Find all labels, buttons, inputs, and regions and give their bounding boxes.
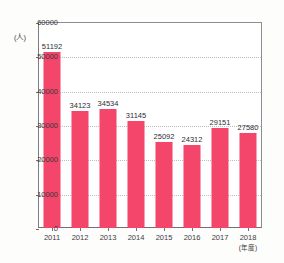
x-axis-tick-mark bbox=[220, 228, 221, 231]
bar-value-label: 27580 bbox=[238, 123, 259, 132]
bar-series: 5119234123345343114525092243122915127580 bbox=[38, 22, 262, 228]
x-axis: 20112012201320142015201620172018(年度) bbox=[38, 229, 262, 259]
y-axis-tick-label: 50000 bbox=[18, 52, 58, 61]
figure-title-cropped bbox=[22, 0, 202, 6]
bar-group: 34534 bbox=[94, 22, 122, 228]
y-axis-unit-label: (人) bbox=[14, 31, 26, 42]
x-axis-tick-mark bbox=[192, 228, 193, 231]
x-axis-tick-mark bbox=[248, 228, 249, 231]
bar-group: 31145 bbox=[122, 22, 150, 228]
x-axis-tick-mark bbox=[136, 228, 137, 231]
bar bbox=[240, 133, 257, 228]
x-axis-tick-label: 2012 bbox=[72, 233, 89, 242]
bar-value-label: 34534 bbox=[98, 99, 119, 108]
bar-value-label: 25092 bbox=[154, 132, 175, 141]
y-axis-tick-label: 30000 bbox=[18, 121, 58, 130]
bar bbox=[72, 111, 89, 228]
bar-group: 27580 bbox=[234, 22, 262, 228]
x-axis-tick-mark bbox=[164, 228, 165, 231]
bar-value-label: 51192 bbox=[42, 42, 62, 51]
bar bbox=[156, 142, 173, 228]
bar bbox=[44, 52, 61, 228]
x-axis-tick-label: 2015 bbox=[156, 233, 173, 242]
y-axis-tick-label: 60000 bbox=[18, 18, 58, 27]
x-axis-tick-label: 2017 bbox=[212, 233, 229, 242]
x-axis-tick-mark bbox=[80, 228, 81, 231]
x-axis-tick-label: 2016 bbox=[184, 233, 201, 242]
bar-group: 34123 bbox=[66, 22, 94, 228]
bar-group: 25092 bbox=[150, 22, 178, 228]
y-axis-tick-label: 0 bbox=[18, 224, 58, 233]
bar-value-label: 31145 bbox=[126, 111, 146, 120]
bar-value-label: 24312 bbox=[182, 135, 203, 144]
bar-value-label: 29151 bbox=[210, 118, 231, 127]
y-axis-tick-label: 10000 bbox=[18, 189, 58, 198]
bar bbox=[184, 145, 201, 228]
x-axis-tick-mark bbox=[108, 228, 109, 231]
x-axis-tick-label: 2014 bbox=[128, 233, 145, 242]
bar bbox=[100, 109, 117, 228]
y-axis-tick-label: 20000 bbox=[18, 155, 58, 164]
x-axis-unit-label: (年度) bbox=[239, 242, 257, 252]
bar-group: 29151 bbox=[206, 22, 234, 228]
x-axis-tick-label: 2013 bbox=[100, 233, 117, 242]
bar bbox=[212, 128, 229, 228]
x-axis-tick-label: 2011 bbox=[44, 233, 60, 242]
y-axis-tick-label: 40000 bbox=[18, 86, 58, 95]
bar-value-label: 34123 bbox=[70, 101, 91, 110]
bar-group: 24312 bbox=[178, 22, 206, 228]
bar bbox=[128, 121, 145, 228]
x-axis-tick-label: 2018 bbox=[240, 233, 257, 242]
chart-figure: (人) 511923412334534311452509224312291512… bbox=[0, 0, 284, 263]
